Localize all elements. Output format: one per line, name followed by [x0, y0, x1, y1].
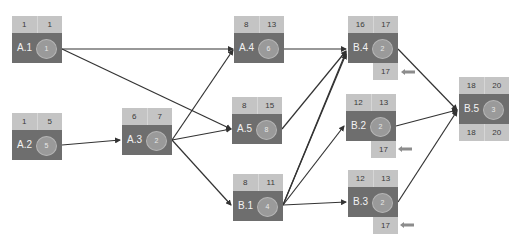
node-label: A.3	[127, 134, 142, 145]
node-label: B.2	[351, 120, 366, 131]
node-a2-body: A.2 5	[12, 130, 62, 160]
duration-badge: 6	[258, 39, 279, 59]
edge-a3-a5	[172, 129, 231, 140]
node-label: A.1	[17, 42, 32, 53]
node-label: B.1	[238, 200, 253, 211]
duration-badge: 3	[483, 100, 504, 120]
early-finish: 13	[259, 16, 285, 33]
left-arrow-icon	[400, 222, 414, 228]
early-start: 1	[12, 16, 37, 33]
late-finish: 20	[484, 124, 510, 141]
node-b1-body: B.1 4	[233, 191, 283, 221]
node-a1-time-row: 1 1	[12, 16, 62, 33]
node-b1[interactable]: 8 11 B.1 4	[233, 174, 283, 221]
node-b2-late-finish: 17	[371, 141, 396, 158]
node-b3[interactable]: 12 13 B.3 2	[348, 170, 398, 217]
early-start: 18	[459, 77, 484, 94]
duration-badge: 5	[36, 136, 57, 156]
early-start: 12	[348, 170, 373, 187]
node-b2-time-row: 12 13	[346, 94, 396, 111]
late-start: 18	[459, 124, 484, 141]
node-a2[interactable]: 1 5 A.2 5	[12, 113, 62, 160]
node-b5-body: B.5 3	[459, 94, 509, 124]
early-finish: 20	[484, 77, 510, 94]
node-b5-late-row: 18 20	[459, 124, 509, 141]
node-b3-body: B.3 2	[348, 187, 398, 217]
duration-badge: 4	[257, 197, 278, 217]
node-b4-late-finish: 17	[373, 63, 398, 80]
node-b1-time-row: 8 11	[233, 174, 283, 191]
edge-b1-b2	[283, 126, 344, 205]
node-label: B.5	[464, 103, 479, 114]
early-start: 8	[234, 16, 259, 33]
duration-badge: 2	[372, 193, 393, 213]
early-finish: 7	[147, 108, 173, 125]
edge-a2-a3	[62, 140, 120, 145]
edge-a3-a4	[172, 50, 233, 140]
early-finish: 13	[371, 94, 397, 111]
node-a3-time-row: 6 7	[122, 108, 172, 125]
node-a4-time-row: 8 13	[234, 16, 284, 33]
node-a4[interactable]: 8 13 A.4 6	[234, 16, 284, 63]
node-a5-body: A.5 8	[232, 114, 282, 144]
duration-badge: 2	[370, 117, 391, 137]
early-start: 8	[233, 174, 258, 191]
early-finish: 11	[258, 174, 284, 191]
edge-b1-b4-b	[283, 54, 346, 205]
node-label: A.4	[239, 42, 254, 53]
early-finish: 1	[37, 16, 63, 33]
node-a5[interactable]: 8 15 A.5 8	[232, 97, 282, 144]
node-b4-body: B.4 2	[348, 33, 398, 63]
early-start: 16	[348, 16, 373, 33]
node-label: B.3	[353, 196, 368, 207]
edge-a3-b1	[172, 140, 231, 205]
node-b5[interactable]: 18 20 B.5 3 18 20	[459, 77, 509, 141]
early-finish: 15	[257, 97, 283, 114]
node-a5-time-row: 8 15	[232, 97, 282, 114]
duration-badge: 2	[146, 131, 167, 151]
duration-badge: 2	[372, 39, 393, 59]
node-label: B.4	[353, 42, 368, 53]
left-arrow-icon	[398, 146, 412, 152]
left-arrow-icon	[401, 69, 415, 75]
early-finish: 5	[37, 113, 63, 130]
edge-a5-b4	[282, 51, 346, 129]
node-a1-body: A.1 1	[12, 33, 62, 63]
early-start: 1	[12, 113, 37, 130]
node-b2[interactable]: 12 13 B.2 2	[346, 94, 396, 141]
early-start: 8	[232, 97, 257, 114]
node-label: A.2	[17, 139, 32, 150]
node-a3-body: A.3 2	[122, 125, 172, 155]
node-b5-time-row: 18 20	[459, 77, 509, 94]
node-b4-time-row: 16 17	[348, 16, 398, 33]
early-finish: 17	[373, 16, 399, 33]
early-start: 12	[346, 94, 371, 111]
node-b4[interactable]: 16 17 B.4 2	[348, 16, 398, 63]
node-a2-time-row: 1 5	[12, 113, 62, 130]
node-a1[interactable]: 1 1 A.1 1	[12, 16, 62, 63]
node-b2-body: B.2 2	[346, 111, 396, 141]
node-label: A.5	[237, 123, 252, 134]
node-a4-body: A.4 6	[234, 33, 284, 63]
edge-b3-b5	[398, 111, 457, 202]
node-b3-time-row: 12 13	[348, 170, 398, 187]
duration-badge: 8	[256, 120, 277, 140]
edge-b1-b3	[283, 202, 346, 205]
node-b3-late-finish: 17	[373, 217, 398, 234]
edge-b2-b5	[396, 110, 457, 126]
early-start: 6	[122, 108, 147, 125]
early-finish: 13	[373, 170, 399, 187]
node-a3[interactable]: 6 7 A.3 2	[122, 108, 172, 155]
duration-badge: 1	[36, 39, 57, 59]
edge-b4-b5	[398, 49, 457, 110]
